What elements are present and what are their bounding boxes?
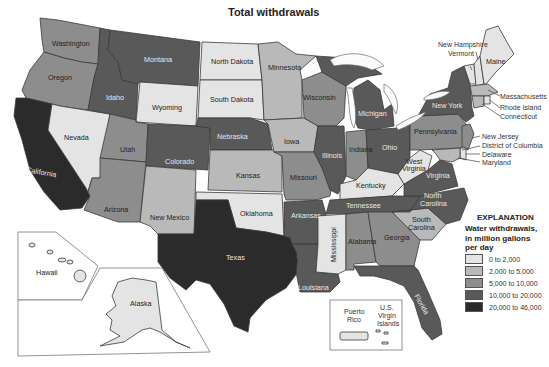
- state-puerto-rico[interactable]: [340, 332, 368, 340]
- label-usvi-1: U.S.: [380, 304, 394, 311]
- callout-delaware: Delaware: [482, 151, 512, 158]
- label-arizona: Arizona: [104, 205, 128, 214]
- label-idaho: Idaho: [106, 93, 124, 102]
- label-indiana: Indiana: [349, 145, 373, 154]
- label-puerto-rico-2: Rico: [347, 316, 361, 323]
- label-mississippi: Mississippi: [329, 227, 338, 262]
- label-west-virginia-2: Virginia: [402, 164, 426, 173]
- state-rhode-island[interactable]: [484, 96, 490, 104]
- label-kansas: Kansas: [236, 171, 260, 180]
- label-iowa: Iowa: [284, 137, 299, 146]
- label-usvi-2: Virgin: [378, 312, 396, 320]
- legend-item: 2,000 to 5,000: [465, 266, 549, 277]
- label-nevada: Nevada: [64, 133, 89, 142]
- label-maine: Maine: [486, 57, 506, 66]
- label-arkansas: Arkansas: [291, 211, 321, 220]
- legend-swatch: [465, 266, 483, 276]
- label-illinois: Illinois: [322, 151, 342, 160]
- label-wyoming: Wyoming: [152, 103, 182, 112]
- legend-label: 10,000 to 20,000: [489, 292, 542, 299]
- callout-vermont: Vermont: [448, 50, 474, 57]
- callout-new-hampshire: New Hampshire: [438, 41, 488, 49]
- label-north-carolina-2: Carolina: [420, 199, 447, 208]
- label-virginia: Virginia: [426, 171, 450, 180]
- label-utah: Utah: [120, 145, 135, 154]
- legend-label: 20,000 to 46,000: [489, 304, 542, 311]
- label-pennsylvania: Pennsylvania: [414, 127, 457, 136]
- state-new-jersey[interactable]: [462, 124, 474, 150]
- legend-label: 2,000 to 5,000: [489, 268, 534, 275]
- label-georgia: Georgia: [384, 233, 410, 242]
- label-nebraska: Nebraska: [217, 132, 248, 141]
- legend-subtitle-line: Water withdrawals,: [465, 224, 549, 234]
- label-oklahoma: Oklahoma: [240, 209, 273, 218]
- callout-massachusetts: Massachusetts: [500, 93, 547, 100]
- state-connecticut[interactable]: [472, 96, 484, 108]
- label-alabama: Alabama: [348, 237, 376, 246]
- legend-item: 0 to 2,000: [465, 254, 549, 265]
- legend-swatch: [465, 278, 483, 288]
- label-ohio: Ohio: [382, 143, 397, 152]
- callout-maryland: Maryland: [482, 159, 511, 167]
- label-tennessee: Tennessee: [346, 201, 381, 210]
- label-south-carolina-2: Carolina: [408, 223, 435, 232]
- legend-item: 20,000 to 46,000: [465, 302, 549, 313]
- state-massachusetts[interactable]: [470, 84, 498, 96]
- state-maryland[interactable]: [432, 148, 460, 162]
- label-missouri: Missouri: [290, 173, 317, 182]
- label-kentucky: Kentucky: [356, 181, 386, 190]
- callout-district-of-columbia: District of Columbia: [482, 142, 543, 149]
- label-louisiana: Louisiana: [298, 283, 329, 292]
- legend-subtitle-line: in million gallons: [465, 234, 549, 244]
- label-wisconsin: Wisconsin: [303, 93, 336, 102]
- legend-swatch: [465, 302, 483, 312]
- legend-item: 5,000 to 10,000: [465, 278, 549, 289]
- label-puerto-rico-1: Puerto: [344, 308, 365, 315]
- legend: EXPLANATION Water withdrawals, in millio…: [465, 213, 549, 313]
- callout-connecticut: Connecticut: [500, 113, 537, 120]
- label-oregon: Oregon: [48, 73, 72, 82]
- label-north-dakota: North Dakota: [211, 57, 253, 66]
- label-alaska: Alaska: [130, 299, 152, 308]
- label-washington: Washington: [52, 39, 90, 48]
- legend-subtitle: Water withdrawals, in million gallons pe…: [465, 224, 549, 253]
- label-usvi-3: Islands: [377, 320, 400, 327]
- legend-swatch: [465, 290, 483, 300]
- state-maine[interactable]: [480, 26, 514, 84]
- label-montana: Montana: [144, 55, 172, 64]
- legend-label: 5,000 to 10,000: [489, 280, 538, 287]
- legend-item: 10,000 to 20,000: [465, 290, 549, 301]
- label-new-york: New York: [432, 101, 463, 110]
- label-new-mexico: New Mexico: [150, 213, 189, 222]
- label-texas: Texas: [226, 253, 245, 262]
- inset-hawaii-frame: [18, 232, 98, 300]
- legend-swatch: [465, 254, 483, 264]
- state-iowa[interactable]: [264, 118, 318, 152]
- label-minnesota: Minnesota: [268, 63, 301, 72]
- label-south-dakota: South Dakota: [210, 95, 254, 104]
- callout-rhode-island: Rhode Island: [500, 104, 541, 111]
- legend-heading: EXPLANATION: [477, 213, 549, 222]
- callout-new-jersey: New Jersey: [482, 133, 519, 141]
- legend-label: 0 to 2,000: [489, 256, 520, 263]
- label-michigan: Michigan: [358, 109, 387, 118]
- legend-subtitle-line: per day: [465, 243, 549, 253]
- label-colorado: Colorado: [165, 157, 194, 166]
- label-hawaii: Hawaii: [36, 268, 58, 277]
- state-new-mexico[interactable]: [140, 166, 196, 234]
